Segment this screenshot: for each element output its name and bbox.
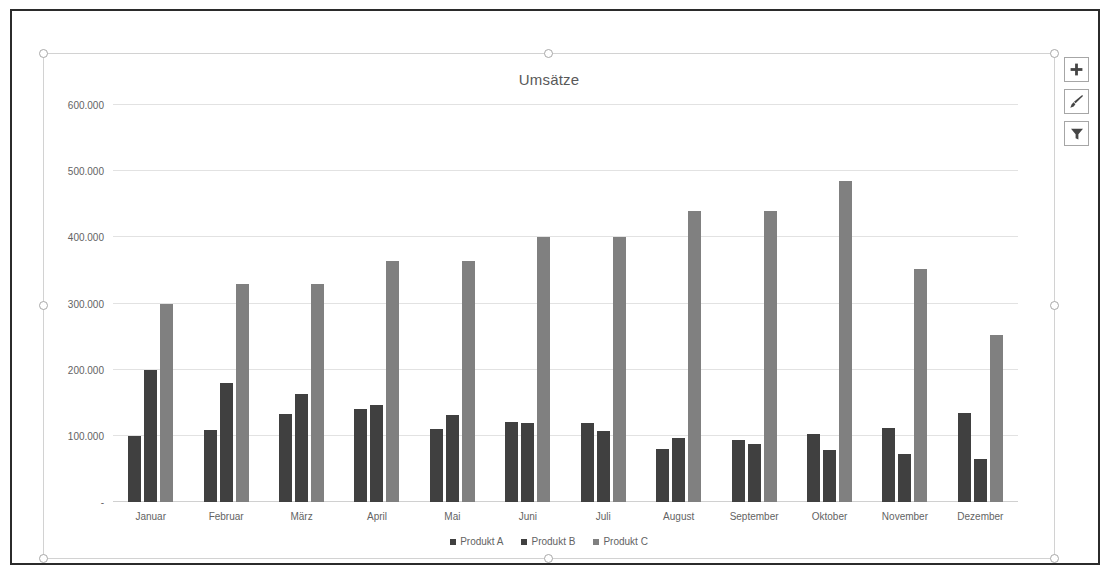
bar[interactable] [537,237,550,502]
x-axis-category-label: September [716,511,791,522]
brush-icon [1069,94,1084,109]
bar-group: Februar [188,105,263,502]
y-axis-tick-label: 400.000 [68,232,104,243]
bar[interactable] [898,454,911,502]
legend-entry[interactable]: Produkt B [521,536,575,547]
legend-swatch [521,539,527,545]
legend-swatch [450,539,456,545]
resize-handle-bottom-right[interactable] [1050,554,1059,563]
chart-object[interactable]: Umsätze -100.000200.000300.000400.000500… [43,53,1055,559]
bar[interactable] [914,269,927,502]
resize-handle-middle-left[interactable] [39,301,48,310]
chart-styles-button[interactable] [1064,89,1089,114]
bar-group: Januar [113,105,188,502]
bar[interactable] [295,394,308,502]
legend-entry[interactable]: Produkt A [450,536,503,547]
bar[interactable] [430,429,443,502]
chart-filters-button[interactable] [1064,121,1089,146]
bar-group: Oktober [792,105,867,502]
legend-swatch [593,539,599,545]
bar[interactable] [974,459,987,502]
bar[interactable] [386,261,399,503]
bar-group: April [339,105,414,502]
bar-group: November [867,105,942,502]
bar[interactable] [354,409,367,502]
bar[interactable] [462,261,475,503]
x-axis-category-label: Juni [490,511,565,522]
y-axis-tick-label: 500.000 [68,166,104,177]
bar[interactable] [446,415,459,502]
bar-group: Juni [490,105,565,502]
resize-handle-top-center[interactable] [544,49,553,58]
x-axis-category-label: August [641,511,716,522]
legend-entry[interactable]: Produkt C [593,536,647,547]
resize-handle-top-left[interactable] [39,49,48,58]
resize-handle-bottom-center[interactable] [544,554,553,563]
bar[interactable] [521,423,534,502]
bar[interactable] [236,284,249,502]
y-axis-tick-label: 200.000 [68,364,104,375]
plot-area: -100.000200.000300.000400.000500.000600.… [113,105,1018,502]
bar[interactable] [144,370,157,502]
y-axis-tick-label: 600.000 [68,100,104,111]
legend-label: Produkt C [603,536,647,547]
bar-group: Juli [566,105,641,502]
bar[interactable] [958,413,971,502]
bar[interactable] [204,430,217,502]
x-axis-category-label: Oktober [792,511,867,522]
chart-elements-button[interactable] [1064,57,1089,82]
bar-group: September [716,105,791,502]
bar[interactable] [656,449,669,502]
bar[interactable] [990,335,1003,502]
x-axis-category-label: Dezember [943,511,1018,522]
bar[interactable] [370,405,383,502]
resize-handle-middle-right[interactable] [1050,301,1059,310]
bar-group: August [641,105,716,502]
bar[interactable] [807,434,820,502]
bar-group: Dezember [943,105,1018,502]
bar-group: März [264,105,339,502]
x-axis-category-label: Mai [415,511,490,522]
resize-handle-top-right[interactable] [1050,49,1059,58]
x-axis-category-label: Juli [566,511,641,522]
application-window: Umsätze -100.000200.000300.000400.000500… [10,9,1100,565]
funnel-icon [1070,127,1084,141]
bar[interactable] [613,237,626,502]
chart-title[interactable]: Umsätze [44,71,1054,88]
bar[interactable] [764,211,777,502]
bar[interactable] [128,436,141,502]
chart-legend[interactable]: Produkt AProdukt BProdukt C [44,536,1054,547]
bar[interactable] [823,450,836,502]
bar[interactable] [748,444,761,502]
x-axis-category-label: November [867,511,942,522]
legend-label: Produkt B [531,536,575,547]
bar[interactable] [672,438,685,502]
bar[interactable] [581,423,594,502]
bar[interactable] [220,383,233,502]
x-axis-category-label: Februar [188,511,263,522]
y-axis-tick-label: - [101,497,104,508]
bar[interactable] [505,422,518,502]
bar[interactable] [311,284,324,502]
bar[interactable] [882,428,895,502]
x-axis-category-label: April [339,511,414,522]
x-axis-category-label: Januar [113,511,188,522]
bar[interactable] [732,440,745,502]
bar[interactable] [688,211,701,502]
y-axis-tick-label: 300.000 [68,298,104,309]
bar-group: Mai [415,105,490,502]
resize-handle-bottom-left[interactable] [39,554,48,563]
x-axis-category-label: März [264,511,339,522]
bar[interactable] [279,414,292,502]
bar[interactable] [160,304,173,503]
bar[interactable] [839,181,852,502]
bar-series-group: JanuarFebruarMärzAprilMaiJuniJuliAugustS… [113,105,1018,502]
plus-icon [1070,63,1083,76]
y-axis-tick-label: 100.000 [68,430,104,441]
bar[interactable] [597,431,610,502]
legend-label: Produkt A [460,536,503,547]
chart-side-buttons [1064,57,1089,146]
